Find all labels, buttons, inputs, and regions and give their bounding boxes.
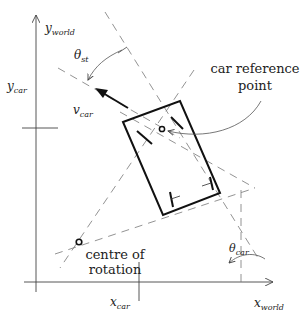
v-car-sub: car (80, 110, 93, 119)
y-world-main: y (45, 21, 52, 35)
y-world-sub: world (52, 28, 75, 37)
rear-right-wheel-stub (202, 183, 211, 186)
x-car-label: xcar (110, 296, 130, 311)
front-left-wheel (137, 131, 152, 144)
car-reference-point-marker (159, 126, 164, 131)
diagram-canvas (0, 0, 307, 314)
theta-car-label: θcar (229, 243, 249, 257)
theta-car-main: θ (229, 242, 236, 255)
rear-left-wheel (170, 192, 173, 207)
rear-left-wheel-stub (171, 196, 180, 199)
theta-car-sub: car (236, 248, 249, 257)
centre-of-rotation-marker (76, 239, 82, 245)
ref-to-centre-dashed-line (60, 70, 194, 268)
car-reference-line-1: car reference (210, 60, 300, 77)
theta-st-label: θst (74, 49, 89, 64)
velocity-arrow-shaft (103, 93, 128, 108)
x-car-main: x (110, 295, 117, 309)
car-reference-point-label: car reference point (210, 60, 300, 94)
car-reference-line-2: point (210, 77, 300, 94)
centre-of-rotation-line-2: rotation (82, 262, 148, 277)
centre-of-rotation-line-1: centre of (82, 247, 148, 262)
theta-st-tick (118, 47, 127, 53)
theta-st-sub: st (81, 55, 88, 64)
y-world-label: yworld (45, 22, 75, 37)
front-right-wheel (171, 117, 183, 129)
centre-of-rotation-label: centre of rotation (82, 247, 148, 277)
x-car-sub: car (117, 302, 130, 311)
y-car-main: y (7, 79, 14, 93)
x-world-main: x (254, 296, 261, 310)
x-world-sub: world (261, 303, 284, 312)
y-car-label: ycar (7, 80, 27, 95)
velocity-arrowhead (95, 88, 108, 98)
v-car-label: vcar (73, 104, 93, 119)
theta-st-arc (88, 50, 122, 80)
front-axle-dashed-line (120, 112, 255, 188)
v-car-main: v (73, 103, 80, 117)
x-world-label: xworld (254, 297, 284, 312)
diagram: yworld θst ycar vcar car reference point… (0, 0, 307, 314)
y-car-sub: car (14, 86, 27, 95)
